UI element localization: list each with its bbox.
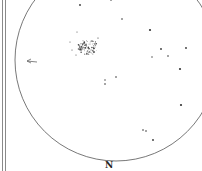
star	[142, 129, 144, 131]
star	[121, 18, 123, 20]
star	[151, 56, 152, 57]
eyepiece-sketch	[0, 0, 202, 171]
star	[79, 4, 81, 6]
star	[72, 50, 73, 51]
star	[70, 42, 71, 43]
star	[149, 29, 151, 31]
star	[104, 79, 105, 80]
star	[76, 55, 77, 56]
star	[160, 48, 162, 50]
direction-arrow-icon	[27, 59, 37, 63]
field-stars	[70, 0, 187, 141]
star	[152, 139, 154, 141]
star	[145, 130, 147, 132]
star	[179, 68, 181, 70]
star	[104, 83, 106, 85]
star	[167, 55, 169, 57]
star	[115, 76, 117, 78]
field-of-view-circle	[15, 0, 202, 161]
star-cluster	[78, 40, 97, 55]
star	[110, 0, 112, 1]
star	[97, 37, 98, 38]
north-label: N	[105, 160, 113, 170]
star	[185, 47, 187, 49]
star	[180, 104, 182, 106]
star	[77, 32, 78, 33]
